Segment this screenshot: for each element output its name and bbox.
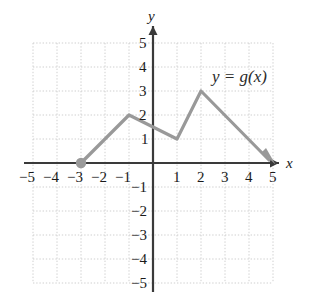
y-tick-label-5: 5 <box>139 36 147 51</box>
x-tick-label-3: 3 <box>221 170 229 185</box>
x-tick-label-neg4: −4 <box>43 170 59 185</box>
x-tick-label-neg3: −3 <box>67 170 83 185</box>
y-tick-label-neg3: −3 <box>131 228 147 243</box>
x-tick-label-neg2: −2 <box>91 170 107 185</box>
y-tick-label-3: 3 <box>139 84 147 99</box>
x-tick-label-neg5: −5 <box>19 170 35 185</box>
y-axis <box>149 26 158 292</box>
x-axis-name: x <box>286 156 293 171</box>
endpoint-dot-marker <box>76 158 86 168</box>
x-tick-label-1: 1 <box>173 170 181 185</box>
y-tick-label-1: 1 <box>141 132 149 147</box>
function-curve-g <box>81 91 276 165</box>
x-tick-label-4: 4 <box>245 170 253 185</box>
x-axis <box>24 159 279 168</box>
curve-equation-label: y = g(x) <box>212 68 267 85</box>
x-tick-label-neg1: −1 <box>115 170 131 185</box>
y-tick-label-neg2: −2 <box>131 204 147 219</box>
x-tick-label-2: 2 <box>197 170 205 185</box>
coordinate-plane <box>0 0 316 303</box>
y-tick-label-neg4: −4 <box>131 252 147 267</box>
x-tick-label-5: 5 <box>269 170 277 185</box>
y-tick-label-2: 2 <box>139 108 147 123</box>
y-tick-label-4: 4 <box>139 60 147 75</box>
graph-figure: −5 −4 −3 −2 −1 1 2 3 4 5 5 4 3 2 1 −1 −2… <box>0 0 316 303</box>
y-tick-label-neg5: −5 <box>131 276 147 291</box>
y-axis-name: y <box>148 9 155 24</box>
y-tick-label-neg1: −1 <box>131 180 147 195</box>
